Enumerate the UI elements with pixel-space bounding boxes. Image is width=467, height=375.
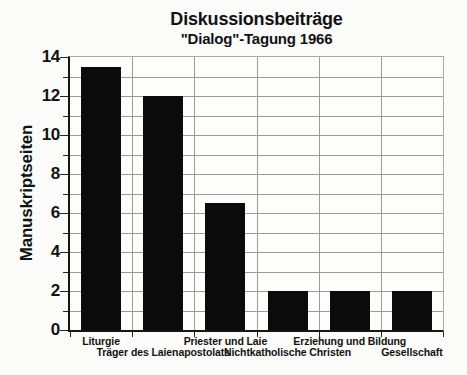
y-axis-tick	[63, 116, 68, 117]
bar	[143, 96, 183, 330]
y-axis-tick	[60, 291, 68, 292]
bar-chart-figure: Diskussionsbeiträge "Dialog"-Tagung 1966…	[0, 0, 467, 375]
y-axis-tick	[63, 77, 68, 78]
y-axis-tick	[63, 272, 68, 273]
y-axis-label: Manuskriptseiten	[17, 125, 37, 262]
bar	[268, 291, 308, 330]
y-axis-tick	[63, 311, 68, 312]
y-tick-label: 14	[0, 47, 60, 67]
vertical-gridline	[381, 57, 382, 330]
vertical-gridline	[257, 57, 258, 330]
x-category-label: Nichtkatholische Christen	[224, 347, 351, 358]
plot-area	[68, 56, 444, 332]
y-axis-tick	[63, 233, 68, 234]
y-axis-tick	[63, 194, 68, 195]
y-axis-tick	[60, 135, 68, 136]
vertical-gridline	[194, 57, 195, 330]
vertical-gridline	[319, 57, 320, 330]
y-axis-tick	[60, 213, 68, 214]
x-axis-tick	[70, 332, 71, 337]
vertical-gridline	[132, 57, 133, 330]
bar	[392, 291, 432, 330]
chart-subtitle: "Dialog"-Tagung 1966	[70, 30, 443, 47]
x-category-label: Träger des Laienapostolats	[97, 347, 230, 358]
y-axis-tick	[60, 96, 68, 97]
x-category-label: Gesellschaft	[381, 347, 442, 358]
y-tick-label: 6	[0, 203, 60, 223]
y-tick-label: 0	[0, 320, 60, 340]
y-tick-label: 8	[0, 164, 60, 184]
x-axis-tick	[443, 332, 444, 337]
chart-title: Diskussionsbeiträge	[70, 9, 443, 30]
y-tick-label: 2	[0, 281, 60, 301]
y-axis-tick	[60, 57, 68, 58]
y-tick-label: 10	[0, 125, 60, 145]
bar	[81, 67, 121, 330]
y-axis-tick	[60, 174, 68, 175]
x-axis-tick	[132, 332, 133, 337]
y-tick-label: 4	[0, 242, 60, 262]
y-axis-tick	[60, 330, 68, 331]
bar	[205, 203, 245, 330]
y-axis-tick	[60, 252, 68, 253]
y-axis-tick	[63, 155, 68, 156]
bar	[330, 291, 370, 330]
y-tick-label: 12	[0, 86, 60, 106]
